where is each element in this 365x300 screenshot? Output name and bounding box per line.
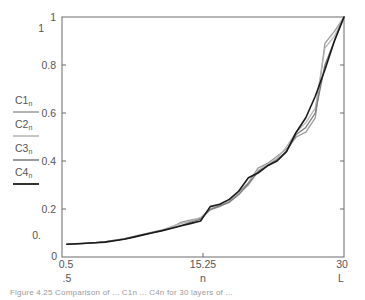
- legend-label-c2: C2n: [15, 118, 32, 131]
- legend-label-c3: C3n: [15, 142, 32, 155]
- legend: C1nC2nC3nC4n: [13, 94, 39, 184]
- x-axis: 0.515.2530: [59, 253, 348, 270]
- series-line-c3: [67, 17, 344, 244]
- x-axis-secondary-label: .5: [63, 272, 72, 284]
- plot-area: [62, 17, 344, 257]
- y-tick-label: 0.2: [41, 203, 56, 215]
- y-extra-label: 0.: [32, 229, 41, 241]
- legend-label-c1: C1n: [15, 94, 32, 107]
- y-tick-label: 1: [50, 11, 56, 23]
- x-axis-right-label: L: [338, 272, 344, 284]
- plot-frame: [62, 17, 344, 257]
- y-tick-label: 0: [51, 250, 57, 262]
- y-tick-label: 0.4: [41, 155, 56, 167]
- series-layer: [67, 17, 344, 244]
- x-tick-label: 0.5: [59, 258, 74, 270]
- y-tick-label: 0.8: [41, 59, 56, 71]
- x-tick-label: 30: [336, 258, 348, 270]
- x-axis-label: n: [200, 272, 206, 284]
- x-tick-label: 15.25: [190, 258, 216, 270]
- figure-caption: Figure 4.25 Comparison of ... C1n ... C4…: [10, 288, 233, 297]
- line-chart: 00.20.40.60.8110. 0.515.2530 .5 n L C1nC…: [0, 0, 365, 300]
- y-extra-label: 1: [38, 22, 44, 34]
- y-tick-label: 0.6: [41, 107, 56, 119]
- legend-label-c4: C4n: [15, 166, 32, 179]
